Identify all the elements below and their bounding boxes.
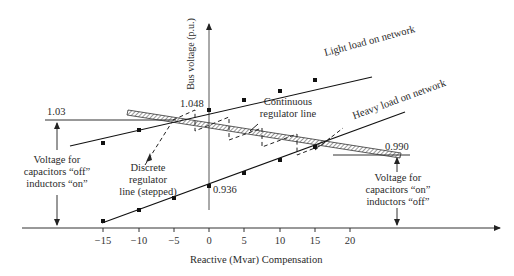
- right-range-annotation: Voltage for capacitors “on” inductors “o…: [361, 172, 435, 208]
- x-tick: 15: [310, 235, 321, 246]
- x-axis-label: Reactive (Mvar) Compensation: [190, 254, 322, 266]
- x-tick: −15: [95, 235, 111, 246]
- discrete-pointer-arrowhead: [146, 153, 152, 162]
- x-tick: −10: [131, 235, 147, 246]
- value-label-0-990: 0.990: [385, 141, 409, 153]
- x-tick: 10: [275, 235, 286, 246]
- value-label-1-048: 1.048: [180, 98, 204, 110]
- right-annotation-line2: capacitors “on”: [361, 184, 435, 196]
- x-tick: 0: [206, 235, 211, 246]
- value-label-0-936: 0.936: [213, 184, 237, 196]
- x-axis-ticks: [103, 228, 350, 232]
- continuous-regulator-label: Continuous regulator line: [257, 96, 319, 120]
- discrete-label-line2: regulator: [118, 174, 178, 186]
- continuous-label-line1: Continuous: [257, 96, 319, 108]
- light-load-line: [70, 77, 372, 146]
- right-annotation-line3: inductors “off”: [361, 196, 435, 208]
- left-annotation-line1: Voltage for: [14, 154, 100, 166]
- right-annotation-line1: Voltage for: [361, 172, 435, 184]
- x-tick: 20: [345, 235, 356, 246]
- left-annotation-line2: capacitors “off”: [14, 166, 100, 178]
- discrete-label-line3: line (stepped): [118, 186, 178, 198]
- x-tick: 5: [241, 235, 246, 246]
- diagram-canvas: [0, 0, 514, 276]
- continuous-label-line2: regulator line: [257, 108, 319, 120]
- y-axis-label: Bus voltage (p.u.): [185, 9, 197, 99]
- discrete-regulator-label: Discrete regulator line (stepped): [118, 162, 178, 198]
- left-range-annotation: Voltage for capacitors “off” inductors “…: [14, 154, 100, 190]
- discrete-label-line1: Discrete: [118, 162, 178, 174]
- value-label-1-03: 1.03: [47, 106, 65, 118]
- x-tick: −5: [168, 235, 179, 246]
- left-annotation-line3: inductors “on”: [14, 178, 100, 190]
